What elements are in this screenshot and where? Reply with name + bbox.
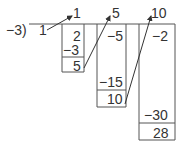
arrow-1 bbox=[47, 16, 72, 30]
lead-coefficient: 1 bbox=[39, 23, 47, 37]
col1-value-2: −3 bbox=[63, 43, 79, 57]
col1-result: 5 bbox=[73, 59, 81, 73]
divisor: −3) bbox=[6, 23, 27, 37]
col3-value-1: −2 bbox=[152, 29, 168, 43]
col3-value-2: −30 bbox=[144, 108, 168, 122]
col3-result: 28 bbox=[153, 126, 169, 140]
col2-value-2: −15 bbox=[99, 75, 123, 89]
col2-value-1: −5 bbox=[107, 29, 123, 43]
arrow-3 bbox=[125, 16, 151, 104]
col1-value-1: 2 bbox=[73, 29, 81, 43]
top-value-1: 1 bbox=[73, 6, 81, 20]
top-value-3: 10 bbox=[151, 6, 167, 20]
top-value-2: 5 bbox=[112, 6, 120, 20]
col2-result: 10 bbox=[107, 92, 123, 106]
